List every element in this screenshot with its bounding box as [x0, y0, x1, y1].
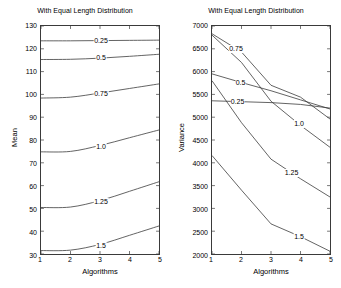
- y-tick-label: 70: [3, 160, 37, 167]
- y-tick-label: 120: [3, 45, 37, 52]
- figure-canvas: With Equal Length Distribution 304050607…: [0, 0, 341, 288]
- chart-title-mean: With Equal Length Distribution: [0, 7, 170, 14]
- series-line: [212, 156, 330, 252]
- mean-chart-panel: With Equal Length Distribution 304050607…: [0, 0, 170, 288]
- y-tick-label: 80: [3, 137, 37, 144]
- y-tick-label: 50: [3, 206, 37, 213]
- x-tick-label: 4: [299, 256, 303, 263]
- plot-area-variance: 0.250.50.751.01.251.5: [211, 25, 331, 255]
- curve-label: 1.5: [294, 233, 305, 241]
- y-axis-ticks-mean: 30405060708090100110120130: [0, 25, 37, 255]
- y-tick-label: 40: [3, 229, 37, 236]
- y-tick-label: 60: [3, 183, 37, 190]
- x-axis-label-mean: Algorithms: [40, 267, 160, 276]
- variance-chart-svg: [212, 26, 330, 254]
- y-tick-label: 2000: [174, 252, 208, 259]
- y-axis-label-variance: Variance: [177, 108, 186, 168]
- curve-label: 0.75: [229, 45, 244, 53]
- y-tick-label: 3000: [174, 206, 208, 213]
- x-tick-label: 5: [158, 256, 162, 263]
- curve-label: 0.25: [94, 37, 109, 45]
- curve-label: 1.25: [284, 169, 299, 177]
- plot-area-mean: 0.250.50.751.01.251.5: [40, 25, 160, 255]
- y-axis-label-mean: Mean: [10, 108, 19, 168]
- curve-label: 0.5: [96, 54, 107, 62]
- curve-label: 1.25: [94, 198, 109, 206]
- curve-label: 0.25: [230, 98, 245, 106]
- y-tick-label: 110: [3, 68, 37, 75]
- x-tick-label: 3: [98, 256, 102, 263]
- x-axis-label-variance: Algorithms: [211, 267, 331, 276]
- x-tick-label: 1: [38, 256, 42, 263]
- x-tick-label: 4: [128, 256, 132, 263]
- chart-title-variance: With Equal Length Distribution: [171, 7, 341, 14]
- x-tick-label: 1: [209, 256, 213, 263]
- curve-label: 0.75: [94, 90, 109, 98]
- x-tick-label: 3: [269, 256, 273, 263]
- y-tick-label: 100: [3, 91, 37, 98]
- x-tick-label: 2: [68, 256, 72, 263]
- curve-label: 1.5: [96, 242, 107, 250]
- curve-label: 0.5: [235, 79, 246, 87]
- curve-label: 1.0: [96, 143, 107, 151]
- y-tick-label: 3500: [174, 183, 208, 190]
- x-tick-label: 2: [239, 256, 243, 263]
- y-tick-label: 7000: [174, 22, 208, 29]
- y-tick-label: 6500: [174, 45, 208, 52]
- curve-label: 1.0: [294, 120, 305, 128]
- y-tick-label: 30: [3, 252, 37, 259]
- variance-chart-panel: With Equal Length Distribution 200025003…: [171, 0, 341, 288]
- y-tick-label: 130: [3, 22, 37, 29]
- x-tick-label: 5: [329, 256, 333, 263]
- y-tick-label: 2500: [174, 229, 208, 236]
- y-tick-label: 5500: [174, 91, 208, 98]
- y-tick-label: 90: [3, 114, 37, 121]
- y-tick-label: 6000: [174, 68, 208, 75]
